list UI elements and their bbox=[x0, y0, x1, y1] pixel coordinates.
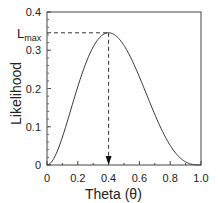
y-tick-label: 0.4 bbox=[26, 6, 41, 18]
likelihood-chart: 00.20.40.60.81.000.10.20.30.4 Lmax Theta… bbox=[0, 0, 218, 203]
arrow-down-icon bbox=[106, 156, 112, 165]
y-tick-label: 0 bbox=[35, 159, 41, 171]
lmax-label: Lmax bbox=[17, 26, 42, 43]
tick-labels: 00.20.40.60.81.000.10.20.30.4 bbox=[26, 6, 209, 184]
x-tick-label: 0 bbox=[44, 172, 50, 184]
y-tick-label: 0.1 bbox=[26, 121, 41, 133]
x-tick-label: 1.0 bbox=[193, 172, 208, 184]
y-tick-label: 0.3 bbox=[26, 44, 41, 56]
y-tick-label: 0.2 bbox=[26, 83, 41, 95]
y-axis-title: Likelihood bbox=[8, 62, 24, 125]
x-tick-label: 0.8 bbox=[163, 172, 178, 184]
likelihood-curve bbox=[47, 33, 201, 165]
x-axis-title: Theta (θ) bbox=[85, 186, 142, 202]
x-tick-label: 0.2 bbox=[70, 172, 85, 184]
plot-frame bbox=[47, 12, 201, 165]
axis-ticks bbox=[47, 12, 201, 165]
x-tick-label: 0.4 bbox=[101, 172, 116, 184]
x-tick-label: 0.6 bbox=[132, 172, 147, 184]
